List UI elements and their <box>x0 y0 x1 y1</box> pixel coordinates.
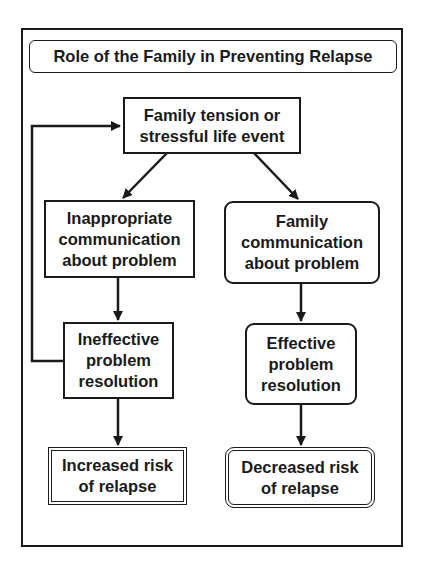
node-decreased-risk-label: Decreased risk of relapse <box>241 457 358 499</box>
node-trigger-label: Family tension or stressful life event <box>140 105 285 147</box>
node-effective-resolution: Effective problem resolution <box>245 323 357 405</box>
node-increased-risk: Increased risk of relapse <box>48 447 187 505</box>
node-ineffective-resolution: Ineffective problem resolution <box>63 322 174 399</box>
node-family-communication: Family communication about problem <box>224 201 380 284</box>
node-inappropriate-communication-label: Inappropriate communication about proble… <box>59 208 181 271</box>
node-family-communication-label: Family communication about problem <box>241 211 363 274</box>
node-trigger: Family tension or stressful life event <box>123 97 301 154</box>
arrow-trigger-to-family-comm <box>254 153 298 199</box>
node-inappropriate-communication: Inappropriate communication about proble… <box>44 200 195 278</box>
node-decreased-risk: Decreased risk of relapse <box>225 447 375 508</box>
node-ineffective-resolution-label: Ineffective problem resolution <box>78 329 160 392</box>
arrow-trigger-to-inappropriate <box>123 153 167 198</box>
node-effective-resolution-label: Effective problem resolution <box>261 333 341 396</box>
node-increased-risk-label: Increased risk of relapse <box>62 455 173 497</box>
